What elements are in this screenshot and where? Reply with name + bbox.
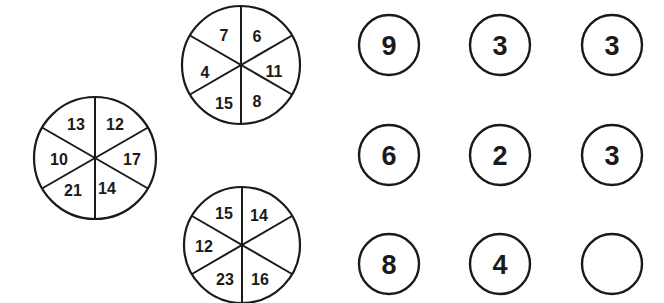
wheel-segment-bottom-right: 14 [98,180,116,197]
wheel-segment-bottom-left: 23 [216,271,234,288]
number-circle-value: 8 [381,250,396,280]
number-circle-value: 6 [381,141,396,171]
puzzle-canvas: 7 6 11 8 15 4 13 12 17 14 21 10 15 14 16… [0,0,664,303]
number-circle-grid: 9 3 3 6 2 3 8 4 [359,15,642,294]
wheel-segment-bottom-right: 16 [251,271,269,288]
number-circle-value: 3 [604,31,619,61]
number-circle-value: 3 [604,141,619,171]
left-wheel: 13 12 17 14 21 10 [34,97,156,219]
wheel-segment-bottom-right: 8 [253,93,262,110]
number-circle-value: 2 [492,141,507,171]
wheel-segment-top-left: 13 [67,116,85,133]
wheel-segment-top-right: 14 [250,207,268,224]
top-wheel: 7 6 11 8 15 4 [182,6,300,124]
number-circle-value: 4 [492,250,507,280]
wheel-segment-top-right: 6 [253,28,262,45]
bottom-wheel: 15 14 16 23 12 [184,187,300,303]
wheel-segment-top-left: 15 [215,205,233,222]
number-circle-empty [582,234,642,294]
wheel-segment-left: 12 [195,238,213,255]
wheel-segment-left: 10 [50,151,68,168]
wheel-segment-bottom-left: 21 [64,182,82,199]
number-circle-value: 3 [492,31,507,61]
wheel-segment-right: 11 [266,63,283,80]
wheel-segment-left: 4 [201,64,210,81]
wheel-segment-top-right: 12 [106,116,124,133]
wheel-segment-right: 17 [123,151,141,168]
number-circle-value: 9 [381,31,396,61]
wheel-segment-top-left: 7 [220,27,229,44]
wheel-segment-bottom-left: 15 [215,95,233,112]
